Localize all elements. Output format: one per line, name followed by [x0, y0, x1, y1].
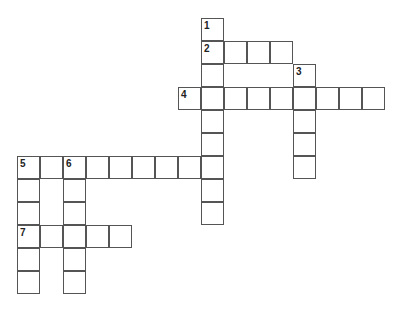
- crossword-cell[interactable]: [201, 64, 224, 87]
- crossword-cell[interactable]: [40, 225, 63, 248]
- crossword-cell[interactable]: [63, 179, 86, 202]
- crossword-cell[interactable]: [293, 110, 316, 133]
- crossword-cell[interactable]: [17, 179, 40, 202]
- crossword-cell[interactable]: [270, 87, 293, 110]
- crossword-cell[interactable]: [224, 87, 247, 110]
- crossword-cell[interactable]: [63, 202, 86, 225]
- crossword-cell[interactable]: [293, 133, 316, 156]
- crossword-cell[interactable]: [17, 202, 40, 225]
- crossword-cell[interactable]: [293, 156, 316, 179]
- crossword-cell[interactable]: [40, 156, 63, 179]
- crossword-cell[interactable]: [201, 87, 224, 110]
- crossword-cell[interactable]: 1: [201, 18, 224, 41]
- crossword-cell[interactable]: 5: [17, 156, 40, 179]
- crossword-cell[interactable]: [132, 156, 155, 179]
- crossword-cell[interactable]: [247, 41, 270, 64]
- crossword-cell[interactable]: [201, 202, 224, 225]
- crossword-grid: 1234567: [0, 0, 400, 315]
- crossword-cell[interactable]: [86, 225, 109, 248]
- crossword-cell[interactable]: [63, 225, 86, 248]
- crossword-cell[interactable]: [109, 156, 132, 179]
- crossword-cell[interactable]: 2: [201, 41, 224, 64]
- clue-number: 5: [20, 158, 26, 169]
- crossword-cell[interactable]: [339, 87, 362, 110]
- crossword-cell[interactable]: [109, 225, 132, 248]
- crossword-cell[interactable]: [201, 156, 224, 179]
- crossword-cell[interactable]: [316, 87, 339, 110]
- crossword-cell[interactable]: [270, 41, 293, 64]
- crossword-cell[interactable]: [201, 133, 224, 156]
- crossword-cell[interactable]: [86, 156, 109, 179]
- clue-number: 4: [181, 89, 187, 100]
- crossword-cell[interactable]: [63, 248, 86, 271]
- crossword-cell[interactable]: 7: [17, 225, 40, 248]
- crossword-cell[interactable]: 3: [293, 64, 316, 87]
- crossword-cell[interactable]: [155, 156, 178, 179]
- crossword-cell[interactable]: [201, 179, 224, 202]
- crossword-cell[interactable]: [178, 156, 201, 179]
- clue-number: 3: [296, 66, 302, 77]
- crossword-cell[interactable]: [63, 271, 86, 294]
- crossword-cell[interactable]: [247, 87, 270, 110]
- crossword-cell[interactable]: [224, 41, 247, 64]
- clue-number: 1: [204, 20, 210, 31]
- crossword-cell[interactable]: [17, 248, 40, 271]
- clue-number: 2: [204, 43, 210, 54]
- crossword-cell[interactable]: [17, 271, 40, 294]
- crossword-cell[interactable]: 6: [63, 156, 86, 179]
- clue-number: 7: [20, 227, 26, 238]
- crossword-cell[interactable]: 4: [178, 87, 201, 110]
- crossword-cell[interactable]: [201, 110, 224, 133]
- crossword-cell[interactable]: [362, 87, 385, 110]
- clue-number: 6: [66, 158, 72, 169]
- crossword-cell[interactable]: [293, 87, 316, 110]
